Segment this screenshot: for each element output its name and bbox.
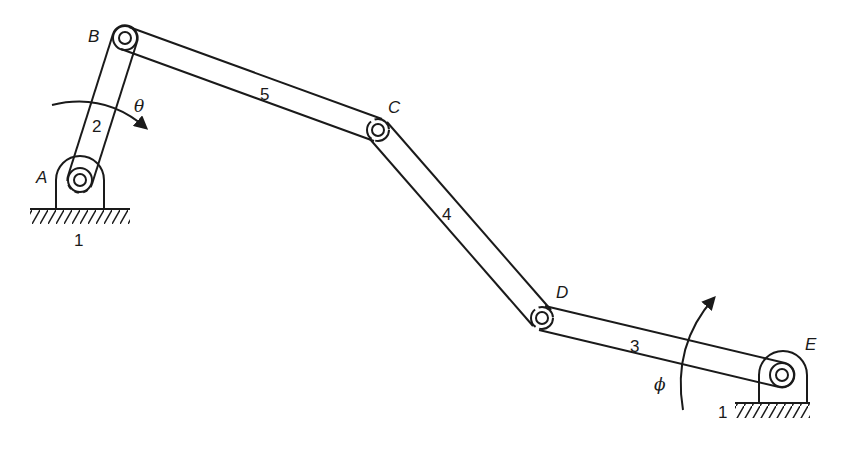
joint-d <box>531 307 553 329</box>
label-link-3: 3 <box>630 337 639 356</box>
label-b: B <box>88 27 99 46</box>
label-link-2: 2 <box>92 117 101 136</box>
ground-support-a <box>30 156 130 224</box>
link-4 <box>369 122 551 326</box>
label-ground-left: 1 <box>74 231 83 250</box>
label-ground-right: 1 <box>718 403 727 422</box>
label-d: D <box>556 283 568 302</box>
mechanism-diagram: A B C D E 2 5 4 3 1 1 θ ϕ <box>0 0 858 453</box>
label-c: C <box>388 98 401 117</box>
link-5 <box>121 27 382 141</box>
label-theta: θ <box>134 96 144 116</box>
phi-arc-icon <box>681 298 714 410</box>
joint-c <box>367 119 389 141</box>
label-e: E <box>805 335 817 354</box>
link-3 <box>539 306 794 387</box>
label-link-4: 4 <box>442 205 451 224</box>
joint-e <box>770 363 794 387</box>
label-phi: ϕ <box>654 374 666 394</box>
label-link-5: 5 <box>260 85 269 104</box>
joint-b <box>113 26 137 50</box>
joint-a <box>68 168 92 192</box>
label-a: A <box>35 168 47 187</box>
